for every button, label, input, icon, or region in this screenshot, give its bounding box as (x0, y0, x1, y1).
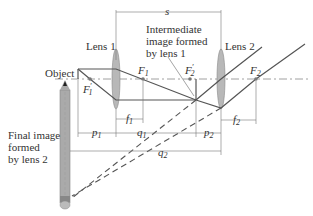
label-p1: p1 (91, 126, 102, 140)
label-intermediate-3: by lens 1 (146, 47, 186, 59)
label-F1: F1 (137, 64, 149, 78)
label-F1-prime: F′1 (82, 82, 92, 97)
label-f2: f2 (233, 113, 240, 127)
label-intermediate-2: image formed (146, 35, 208, 47)
label-lens-1: Lens 1 (86, 40, 116, 52)
label-final-1: Final image (8, 129, 60, 141)
virtual-rays (72, 100, 221, 198)
rays-lens-1 (78, 69, 196, 100)
label-lens-2: Lens 2 (225, 40, 255, 52)
label-object: Object (45, 67, 74, 79)
two-lens-diagram: s Intermediate image formed by lens 1 Le… (0, 0, 313, 216)
label-p2: p2 (203, 126, 214, 140)
pencil-final-image (60, 80, 70, 209)
label-F2: F2 (249, 64, 261, 78)
label-final-3: by lens 2 (8, 153, 48, 165)
label-f1: f1 (126, 112, 133, 126)
focal-point-F1-prime (88, 77, 92, 81)
label-intermediate-1: Intermediate (146, 23, 202, 35)
rays-lens-2 (196, 44, 305, 108)
label-s: s (165, 5, 169, 17)
label-q2: q2 (158, 146, 168, 160)
label-F2-prime: F′2 (184, 63, 194, 78)
label-q1: q1 (137, 126, 147, 140)
label-final-2: formed (8, 141, 40, 153)
